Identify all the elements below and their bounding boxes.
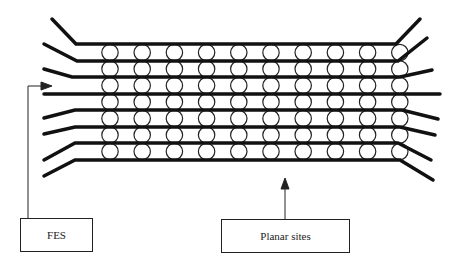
site-circle bbox=[166, 44, 182, 60]
site-circle bbox=[198, 127, 214, 143]
site-circle bbox=[392, 94, 408, 110]
site-circle bbox=[198, 77, 214, 93]
planar-sites-arrow bbox=[281, 178, 289, 219]
site-circle bbox=[327, 44, 343, 60]
planar-sites-label: Planar sites bbox=[260, 230, 310, 242]
site-circle bbox=[327, 94, 343, 110]
site-circle bbox=[359, 143, 375, 159]
site-circle bbox=[134, 127, 150, 143]
fes-arrow bbox=[28, 82, 52, 218]
site-circle bbox=[102, 77, 118, 93]
site-circle bbox=[198, 110, 214, 126]
site-circle bbox=[134, 44, 150, 60]
site-circle bbox=[134, 61, 150, 77]
site-circle bbox=[231, 44, 247, 60]
site-circle bbox=[231, 94, 247, 110]
site-circle bbox=[359, 44, 375, 60]
site-circle bbox=[359, 127, 375, 143]
site-circle bbox=[102, 143, 118, 159]
site-circle bbox=[102, 94, 118, 110]
site-circle bbox=[359, 94, 375, 110]
site-circle bbox=[198, 61, 214, 77]
site-circle bbox=[359, 77, 375, 93]
site-circle bbox=[166, 127, 182, 143]
site-circle bbox=[134, 77, 150, 93]
site-circle bbox=[102, 44, 118, 60]
site-circle bbox=[134, 94, 150, 110]
site-circle bbox=[327, 143, 343, 159]
site-circle bbox=[166, 61, 182, 77]
site-circle bbox=[295, 110, 311, 126]
site-circle bbox=[231, 77, 247, 93]
layer-1 bbox=[52, 19, 420, 44]
site-circle bbox=[327, 77, 343, 93]
site-circle bbox=[263, 127, 279, 143]
site-circle bbox=[166, 143, 182, 159]
site-circle bbox=[198, 143, 214, 159]
site-circle bbox=[295, 61, 311, 77]
site-circle bbox=[263, 110, 279, 126]
site-circle bbox=[166, 77, 182, 93]
site-circle bbox=[392, 110, 408, 126]
site-circle bbox=[102, 110, 118, 126]
fes-label: FES bbox=[47, 229, 66, 241]
site-circle bbox=[231, 110, 247, 126]
site-circle bbox=[263, 143, 279, 159]
site-circle bbox=[102, 127, 118, 143]
site-circle bbox=[134, 110, 150, 126]
site-circle bbox=[295, 143, 311, 159]
site-circle bbox=[327, 110, 343, 126]
site-circle bbox=[231, 61, 247, 77]
site-circle bbox=[134, 143, 150, 159]
layer-8 bbox=[44, 160, 433, 180]
site-circle bbox=[295, 44, 311, 60]
site-circle bbox=[295, 94, 311, 110]
site-circle bbox=[263, 44, 279, 60]
site-circle bbox=[263, 94, 279, 110]
site-circle bbox=[263, 61, 279, 77]
site-circle bbox=[198, 44, 214, 60]
site-circle bbox=[359, 61, 375, 77]
site-circle bbox=[102, 61, 118, 77]
site-circle bbox=[359, 110, 375, 126]
site-circle bbox=[231, 143, 247, 159]
site-circle bbox=[231, 127, 247, 143]
site-circle bbox=[166, 110, 182, 126]
site-circle bbox=[295, 77, 311, 93]
planar-sites-label-box: Planar sites bbox=[221, 219, 350, 253]
site-circle bbox=[198, 94, 214, 110]
site-circle bbox=[166, 94, 182, 110]
site-circle bbox=[295, 127, 311, 143]
site-circle bbox=[392, 77, 408, 93]
site-circle bbox=[327, 61, 343, 77]
site-circle bbox=[327, 127, 343, 143]
fes-label-box: FES bbox=[20, 218, 93, 252]
site-circle bbox=[263, 77, 279, 93]
